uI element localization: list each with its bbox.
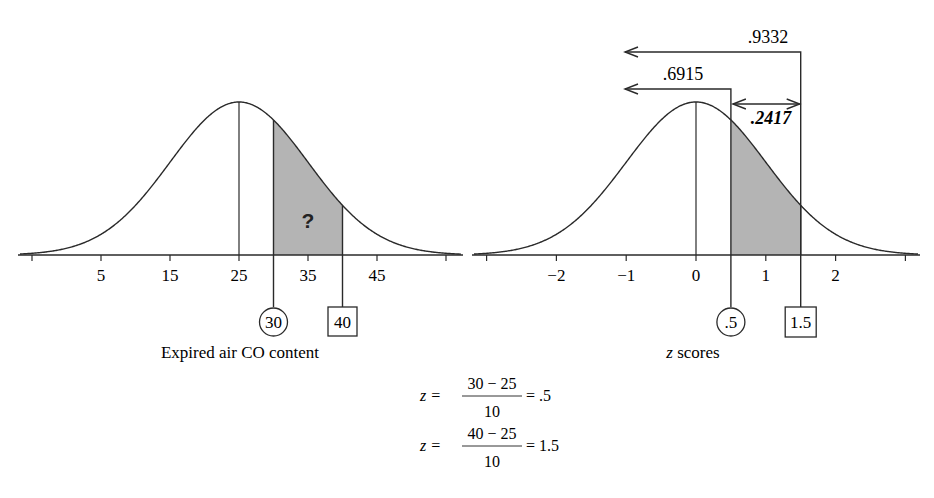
figure: 515253545 30 40 ? Expired air CO content… (0, 0, 934, 498)
annotation-9332: .9332 (748, 27, 789, 47)
left-chart: 515253545 30 40 ? Expired air CO content (18, 102, 463, 362)
left-shaded-question-mark: ? (302, 209, 315, 232)
formula-2-numerator: 40 − 25 (467, 425, 516, 442)
annotation-6915: .6915 (663, 64, 704, 84)
axis-tick-label: 1 (762, 266, 771, 285)
left-x-axis-title: Expired air CO content (161, 343, 319, 362)
left-axis-ticks: 515253545 (32, 255, 446, 285)
formula-2-result: = 1.5 (526, 437, 559, 454)
axis-tick-label: 5 (97, 266, 106, 285)
left-marker-40-label: 40 (334, 313, 351, 332)
annotation-2417: .2417 (751, 108, 793, 128)
formula-1-result: = .5 (526, 387, 551, 404)
right-x-axis-title: z scores (665, 343, 719, 362)
axis-tick-label: 0 (692, 266, 701, 285)
formula-2-lhs: z = (419, 437, 441, 454)
axis-tick-label: 25 (231, 266, 248, 285)
formula-1-denominator: 10 (484, 403, 500, 420)
axis-tick-label: 35 (300, 266, 317, 285)
right-chart: −2−1012 .5 1.5 .9332 .6915 .2417 z score… (472, 27, 920, 362)
formula-1-numerator: 30 − 25 (467, 375, 516, 392)
formula-1: z = 30 − 25 10 = .5 (419, 375, 551, 420)
right-axis-ticks: −2−1012 (487, 255, 906, 285)
axis-tick-label: −1 (617, 266, 635, 285)
left-shaded-area (274, 120, 343, 255)
axis-tick-label: 15 (162, 266, 179, 285)
formula-2: z = 40 − 25 10 = 1.5 (419, 425, 559, 470)
axis-tick-label: 45 (369, 266, 386, 285)
formula-2-denominator: 10 (484, 453, 500, 470)
formula-1-lhs: z = (419, 387, 441, 404)
right-marker-05-label: .5 (725, 313, 738, 332)
left-normal-curve (20, 102, 461, 254)
cumulative-arrow-6915: .6915 (625, 64, 731, 120)
axis-tick-label: 2 (831, 266, 840, 285)
right-marker-15-label: 1.5 (790, 313, 811, 332)
right-shaded-area (731, 120, 801, 255)
axis-tick-label: −2 (547, 266, 565, 285)
difference-arrow-2417: .2417 (733, 99, 800, 128)
left-marker-30-label: 30 (265, 313, 282, 332)
